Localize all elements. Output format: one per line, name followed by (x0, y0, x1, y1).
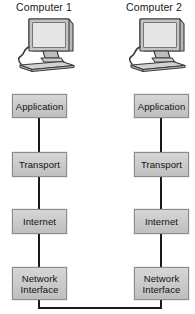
layer-label: Application (136, 101, 188, 112)
connector-right-transport-internet (160, 177, 162, 210)
layer-box-right-network-interface[interactable]: Network Interface (134, 267, 189, 300)
connector-left-internet-network-interface (38, 234, 40, 268)
network-bus-link (38, 307, 162, 309)
layer-label-line-1: Network (22, 273, 58, 284)
computer-1-icon (12, 17, 78, 73)
layer-label-line-2: Interface (21, 284, 59, 295)
protocol-stack-diagram: Computer 1 Computer 2 (0, 0, 195, 314)
desktop-computer-icon (123, 17, 189, 73)
layer-box-left-application[interactable]: Application (12, 94, 67, 118)
computer-2-title: Computer 2 (118, 1, 190, 14)
layer-box-left-transport[interactable]: Transport (12, 152, 67, 177)
computer-2-icon (123, 17, 189, 73)
layer-label: Transport (139, 159, 184, 170)
layer-label: Internet (21, 216, 58, 227)
layer-box-right-application[interactable]: Application (134, 94, 189, 118)
layer-label: Network Interface (19, 273, 61, 295)
layer-label: Network Interface (141, 273, 183, 295)
desktop-computer-icon (12, 17, 78, 73)
connector-left-transport-internet (38, 177, 40, 210)
layer-box-right-transport[interactable]: Transport (134, 152, 189, 177)
layer-box-left-network-interface[interactable]: Network Interface (12, 267, 67, 300)
layer-label: Transport (17, 159, 62, 170)
connector-right-internet-network-interface (160, 234, 162, 268)
connector-left-application-transport (38, 118, 40, 153)
layer-label-line-2: Interface (143, 284, 181, 295)
layer-label: Internet (143, 216, 180, 227)
layer-label: Application (14, 101, 66, 112)
layer-box-left-internet[interactable]: Internet (12, 209, 67, 234)
connector-right-application-transport (160, 118, 162, 153)
computer-1-title: Computer 1 (8, 1, 80, 14)
layer-box-right-internet[interactable]: Internet (134, 209, 189, 234)
layer-label-line-1: Network (144, 273, 180, 284)
